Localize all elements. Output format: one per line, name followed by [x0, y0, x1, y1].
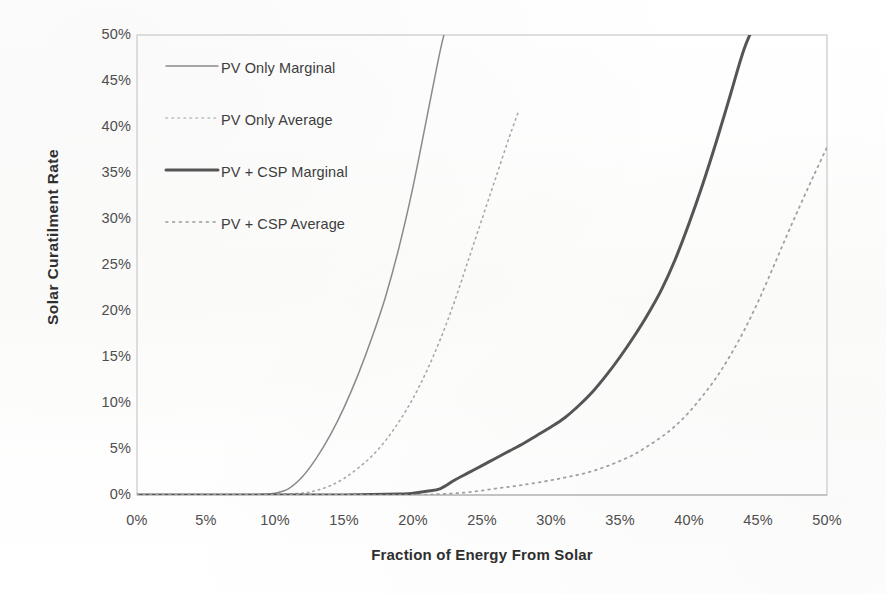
legend-swatch-group	[166, 66, 218, 222]
plot-canvas	[0, 0, 886, 594]
series-line-pv-plus-csp-marginal	[137, 17, 758, 495]
data-series-group	[137, 17, 827, 495]
chart-figure: Solar Curatilment Rate Fraction of Energ…	[0, 0, 886, 594]
series-line-pv-only-marginal	[137, 17, 449, 495]
series-line-pv-plus-csp-average	[137, 147, 827, 495]
plot-area-border	[137, 35, 827, 495]
